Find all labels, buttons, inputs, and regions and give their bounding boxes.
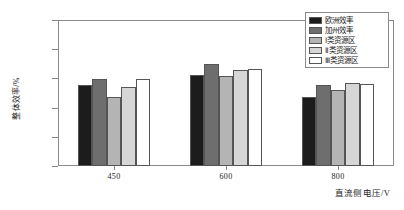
legend-item: 欧洲效率 xyxy=(309,15,385,25)
legend-item: Ⅰ类资源区 xyxy=(309,35,385,45)
bar xyxy=(219,76,234,166)
bar xyxy=(233,70,248,166)
x-tick-label: 450 xyxy=(108,172,121,181)
bar xyxy=(92,79,107,166)
bar xyxy=(190,75,205,166)
bar xyxy=(248,69,263,166)
x-axis-title: 直流侧电压/V xyxy=(0,186,404,198)
legend-swatch xyxy=(309,27,322,34)
bar xyxy=(302,97,317,166)
bar xyxy=(107,97,122,166)
bar xyxy=(360,84,375,166)
x-tick-label: 800 xyxy=(332,172,345,181)
legend-label: Ⅲ类资源区 xyxy=(325,56,358,65)
bar xyxy=(345,83,360,166)
x-tick-mark xyxy=(226,166,227,170)
legend-item: Ⅱ类资源区 xyxy=(309,45,385,55)
legend-label: Ⅰ类资源区 xyxy=(325,36,355,45)
bar xyxy=(121,87,136,166)
legend: 欧洲效率加州效率Ⅰ类资源区Ⅱ类资源区Ⅲ类资源区 xyxy=(305,12,389,68)
legend-swatch xyxy=(309,47,322,54)
x-tick-mark xyxy=(114,166,115,170)
legend-swatch xyxy=(309,37,322,44)
bar xyxy=(331,90,346,166)
x-tick-mark xyxy=(338,166,339,170)
x-tick-label: 600 xyxy=(220,172,233,181)
bar-chart: 0.9700.9680.9660.9640.9620.960 整体效率/% 45… xyxy=(0,0,404,210)
y-axis-title: 整体效率/% xyxy=(10,51,21,147)
bar xyxy=(78,85,93,166)
legend-label: Ⅱ类资源区 xyxy=(325,46,357,55)
legend-swatch xyxy=(309,17,322,24)
bar xyxy=(136,79,151,166)
y-tick-mark xyxy=(52,166,58,167)
bar xyxy=(316,85,331,166)
legend-item: 加州效率 xyxy=(309,25,385,35)
bar xyxy=(204,64,219,166)
legend-item: Ⅲ类资源区 xyxy=(309,55,385,65)
legend-swatch xyxy=(309,57,322,64)
legend-label: 加州效率 xyxy=(325,26,353,35)
legend-label: 欧洲效率 xyxy=(325,16,353,25)
